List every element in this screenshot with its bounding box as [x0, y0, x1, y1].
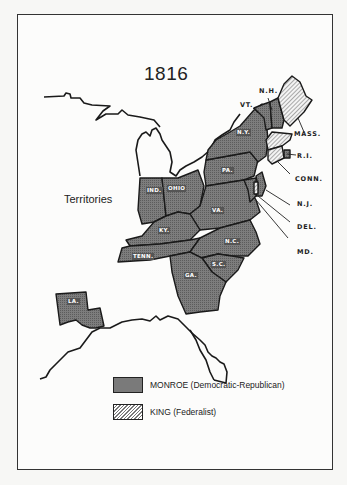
state-connecticut [268, 146, 284, 164]
leader-nj [266, 190, 290, 205]
label-nh: N.H. [259, 87, 278, 95]
label-tenn: TENN. [132, 253, 154, 260]
leader-del [258, 196, 290, 222]
label-del: DEL. [297, 223, 317, 231]
state-delaware [254, 182, 258, 194]
label-nc: N.C. [224, 238, 240, 245]
label-pa: PA. [221, 167, 234, 174]
label-sc: S.C. [211, 261, 226, 268]
label-nj: N.J. [297, 200, 313, 208]
legend-swatch-monroe [113, 377, 143, 393]
state-indiana [138, 178, 166, 224]
territories-label: Territories [64, 193, 112, 205]
label-va: VA. [211, 207, 224, 214]
label-ny: N.Y. [236, 129, 251, 136]
legend-item-king: KING (Federalist) [113, 404, 216, 420]
lake-superior-shore [44, 93, 160, 127]
label-ri: R.I. [297, 152, 313, 160]
label-ga: GA. [184, 272, 198, 279]
legend-swatch-king [113, 404, 143, 420]
label-mass: MASS. [294, 130, 321, 138]
label-la: LA. [67, 298, 80, 305]
state-louisiana [56, 292, 104, 328]
leader-conn [278, 162, 290, 174]
label-ohio: OHIO [167, 185, 186, 192]
state-maine-district-mass [278, 76, 312, 126]
legend-item-monroe: MONROE (Democratic-Republican) [113, 377, 285, 393]
legend-label-king: KING (Federalist) [150, 407, 216, 417]
label-vt: VT. [240, 101, 253, 109]
leader-md [256, 200, 288, 238]
legend-label-monroe: MONROE (Democratic-Republican) [150, 380, 285, 390]
map-title: 1816 [144, 63, 188, 85]
label-conn: CONN. [295, 175, 323, 183]
label-ky: KY. [158, 227, 170, 234]
label-ind: IND. [146, 187, 163, 194]
label-md: MD. [297, 248, 314, 256]
